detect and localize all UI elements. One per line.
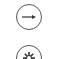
settings-button[interactable]: [16, 45, 42, 59]
next-button[interactable]: [16, 4, 42, 30]
arrow-right-icon: [21, 12, 37, 22]
gear-icon: [22, 51, 36, 59]
